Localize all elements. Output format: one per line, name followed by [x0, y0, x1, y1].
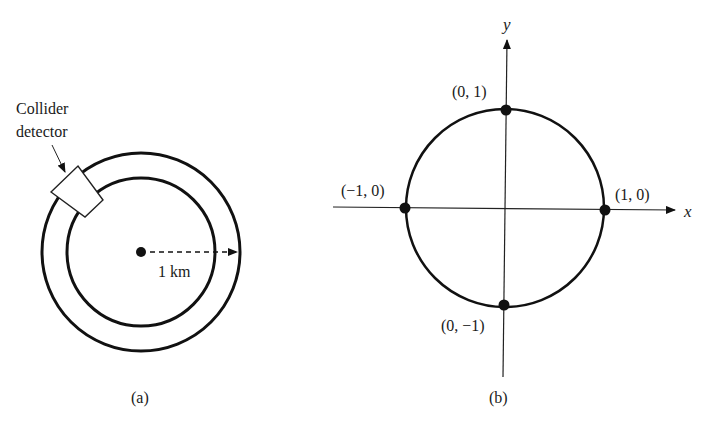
point-label-left: (−1, 0) [341, 182, 385, 200]
figure-canvas: Collider detector 1 km (a) x y (0, 1) (−… [0, 0, 722, 435]
point-label-bottom: (0, −1) [441, 317, 485, 335]
point-top [501, 105, 512, 116]
caption-a: (a) [131, 389, 149, 407]
x-axis [333, 207, 675, 210]
point-label-right: (1, 0) [615, 186, 650, 204]
point-left [400, 203, 411, 214]
figure-b: x y (0, 1) (−1, 0) (1, 0) (0, −1) (b) [333, 15, 692, 407]
caption-b: (b) [489, 389, 508, 407]
detector-label-line2: detector [16, 123, 68, 140]
detector-pointer-arrow [52, 145, 65, 172]
x-axis-label: x [683, 202, 692, 221]
ring-center-dot [136, 247, 146, 257]
collider-detector-box [51, 166, 103, 217]
point-label-top: (0, 1) [452, 83, 487, 101]
figure-a: Collider detector 1 km (a) [16, 100, 240, 407]
point-right [600, 205, 611, 216]
detector-label-line1: Collider [16, 100, 69, 117]
y-axis-label: y [501, 15, 511, 34]
point-bottom [499, 300, 510, 311]
radius-label: 1 km [158, 263, 191, 280]
